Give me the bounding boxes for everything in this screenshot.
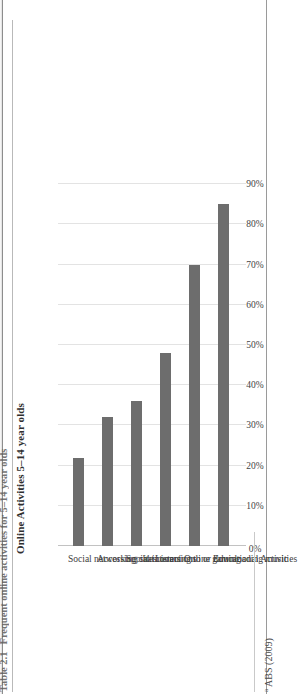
axis-tick-label: 0%: [249, 544, 262, 554]
category-label: Educational Activities: [213, 554, 284, 564]
scanned-page: Table 2.1Frequent online activities for …: [0, 0, 284, 694]
caption-rule: [12, 20, 13, 692]
chart-plot-area: 0%10%20%30%40%50%60%70%80%90%Social netw…: [58, 142, 270, 546]
table-caption-number: Table 2.1: [0, 652, 9, 692]
bar: [131, 401, 142, 546]
axis-tick-label: 60%: [246, 300, 263, 310]
axis-tick-label: 80%: [246, 220, 263, 230]
rotated-content: Table 2.1Frequent online activities for …: [0, 0, 284, 694]
footnote-text: ABS (2009): [263, 638, 274, 687]
chart-title: Online Activities 5–14 year olds: [14, 403, 26, 554]
axis-tick-label: 40%: [246, 380, 263, 390]
table-caption: Table 2.1Frequent online activities for …: [0, 52, 9, 692]
axis-tick-label: 50%: [246, 340, 263, 350]
axis-tick-label: 70%: [246, 260, 263, 270]
axis-tick-label: 10%: [246, 501, 263, 511]
bar: [189, 265, 200, 546]
footnote-rule: [254, 532, 255, 692]
bar: [218, 204, 229, 546]
bar: [73, 458, 84, 546]
gridline: [58, 183, 246, 184]
axis-tick-label: 30%: [246, 421, 263, 431]
bar: [160, 353, 171, 546]
table-caption-text: Frequent online activities for 5–14 year…: [0, 449, 9, 645]
footnote: aABS (2009): [262, 638, 274, 692]
axis-tick-label: 90%: [246, 179, 263, 189]
bar: [102, 417, 113, 546]
axis-tick-label: 20%: [246, 461, 263, 471]
footnote-marker: a: [262, 689, 270, 692]
